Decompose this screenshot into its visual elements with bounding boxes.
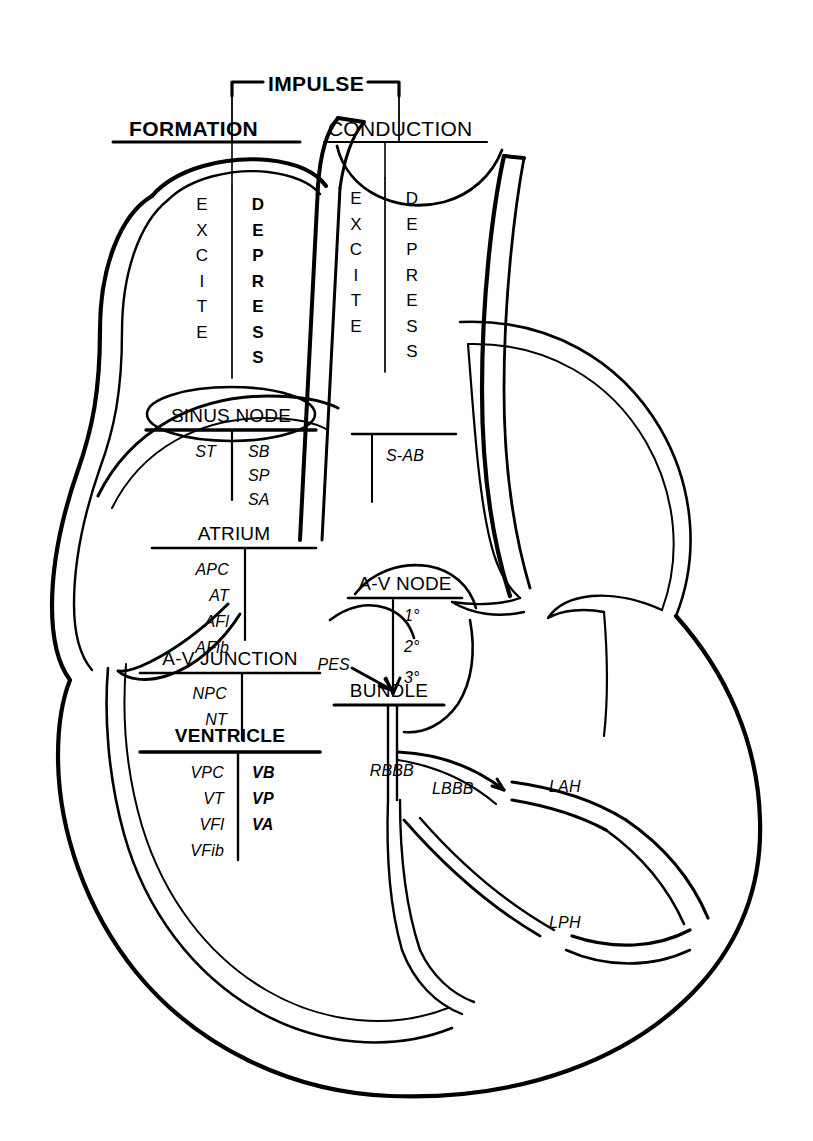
lah-fascicle-lower [512,800,606,830]
cd-4: R [401,263,423,289]
fe-4: I [191,269,213,295]
item-vp: VP [252,791,274,807]
fd-3: P [247,243,269,269]
fe-5: T [191,294,213,320]
cd-1: D [401,186,423,212]
item-sb: SB [248,444,270,460]
rbbb-branch-b-distal [420,950,474,1002]
aorta-right-wall [322,188,340,540]
ce-6: E [345,314,367,340]
formation-heading: FORMATION [129,118,258,139]
heart-diagram-artwork [0,0,813,1141]
section-label-av-node: A-V NODE [358,574,451,593]
conduction-excite-column: EXCITE [345,186,367,339]
callout-rbbb: RBBB [370,763,414,779]
section-label-atrium: ATRIUM [198,524,271,543]
ce-4: I [345,263,367,289]
fd-7: S [247,345,269,371]
right-chamber-septal-edge [468,344,520,598]
cd-3: P [401,237,423,263]
formation-depress-column: DEPRESS [247,192,269,371]
item-vb: VB [252,765,275,781]
cd-2: E [401,212,423,238]
ce-2: X [345,212,367,238]
pulmonary-artery-outer [482,156,510,596]
section-label-av-junction: A-V JUNCTION [162,649,297,668]
lph-fascicle-a [404,820,540,936]
rbbb-branch-b [400,800,420,950]
fe-2: X [191,218,213,244]
pulmonary-artery-top-cap [504,156,524,158]
right-atrium-outer [460,322,691,616]
aorta-left-wall [300,186,318,540]
lph-fascicle-b [420,818,554,930]
ce-3: C [345,237,367,263]
fd-4: R [247,269,269,295]
callout-lph: LPH [549,915,581,931]
item-va: VA [252,817,274,833]
item-npc: NPC [193,686,227,702]
tricuspid-leaflet-left [452,598,524,615]
conduction-depress-column: DEPRESS [401,186,423,365]
fd-5: E [247,294,269,320]
ce-1: E [345,186,367,212]
formation-excite-column: EXCITE [191,192,213,345]
lah-fascicle-distal-inner [606,830,684,924]
diagram-page: IMPULSE FORMATION CONDUCTION EXCITE DEPR… [0,0,813,1141]
cd-5: E [401,288,423,314]
impulse-heading: IMPULSE [268,73,364,94]
right-ventricle-septum [604,612,607,736]
section-label-ventricle: VENTRICLE [175,726,285,745]
callout-lah: LAH [549,779,581,795]
fe-3: C [191,243,213,269]
section-label-bundle: BUNDLE [350,681,428,700]
fd-1: D [247,192,269,218]
item-at: AT [209,588,229,604]
fe-1: E [191,192,213,218]
item-sab: S-AB [386,448,424,464]
rbbb-branch-a-distal [402,950,462,1014]
item-vfib: VFib [190,843,224,859]
item-sa: SA [248,492,270,508]
callout-pes: PES [317,657,350,673]
fd-2: E [247,218,269,244]
impulse-bracket-right [368,82,399,96]
item-sp: SP [248,468,270,484]
left-ventricle-cavity-inner [125,664,448,1021]
lah-fascicle-distal [626,820,708,918]
fe-6: E [191,320,213,346]
section-label-sinus-node: SINUS NODE [171,406,291,425]
lph-distal-arc-inner [566,950,690,964]
av-node-inflow [330,605,414,638]
callout-lbbb: LBBB [432,781,474,797]
item-vpc: VPC [191,765,225,781]
pulmonary-artery-inner [504,158,530,588]
ce-5: T [345,288,367,314]
item-av-block-1: 1° [404,608,420,624]
item-afl: AFl [204,614,229,630]
cd-6: S [401,314,423,340]
conduction-heading: CONDUCTION [328,118,472,139]
lph-distal-arc [572,930,690,945]
cd-7: S [401,339,423,365]
item-apc: APC [196,562,230,578]
impulse-bracket-left [232,82,263,96]
fd-6: S [247,320,269,346]
item-vt: VT [203,791,224,807]
item-av-block-2: 2° [404,639,420,655]
item-vfl: VFl [199,817,224,833]
item-st: ST [195,444,216,460]
